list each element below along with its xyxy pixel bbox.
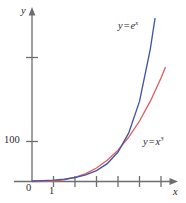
exponential-label-lhs: y [118,20,123,31]
plot-canvas [0,0,186,203]
cubic-label-exponent: 3 [160,135,163,142]
graph-figure: y x 0 1 100 y=ex y=x3 [0,0,186,203]
exponential-curve-label: y=ex [118,21,138,32]
exponential-label-exponent: x [135,19,138,26]
cubic-label-lhs: y [143,136,148,147]
exponential-label-equals: = [123,20,131,31]
x-axis-arrow-icon [170,178,179,185]
cubic-label-equals: = [148,136,156,147]
x-tick-label-1: 1 [49,186,54,197]
exponential-curve [32,19,155,182]
y-axis-arrow-icon [29,7,36,16]
y-axis-label: y [21,6,26,17]
x-axis-label: x [173,187,178,198]
origin-label: 0 [26,183,31,194]
cubic-curve-label: y=x3 [143,137,164,148]
cubic-curve [32,68,165,182]
y-tick-label-100: 100 [4,135,20,146]
